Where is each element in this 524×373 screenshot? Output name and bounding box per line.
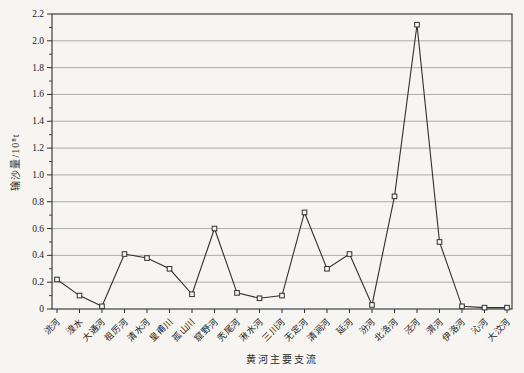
data-point-marker xyxy=(347,252,352,257)
data-point-marker xyxy=(235,291,240,296)
y-tick-label: 2.0 xyxy=(32,36,44,46)
data-point-marker xyxy=(482,305,487,310)
x-tick-label: 大通河 xyxy=(79,316,107,344)
data-point-marker xyxy=(280,293,285,298)
y-axis-title: 输沙量/10⁸t xyxy=(7,102,21,222)
x-tick-label: 清水河 xyxy=(124,316,152,344)
x-tick-label: 湫水河 xyxy=(237,316,265,344)
y-tick-label: 1.0 xyxy=(32,170,44,180)
data-point-marker xyxy=(55,277,60,282)
x-tick-label: 清涧河 xyxy=(304,316,332,344)
data-point-marker xyxy=(145,256,150,261)
data-point-marker xyxy=(505,305,510,310)
x-tick-label: 祖厉河 xyxy=(102,316,130,344)
data-point-marker xyxy=(100,304,105,309)
data-point-marker xyxy=(415,22,420,27)
y-tick-label: 2.2 xyxy=(32,9,44,19)
y-tick-label: 0.2 xyxy=(32,277,44,287)
data-point-marker xyxy=(437,240,442,245)
data-point-marker xyxy=(167,266,172,271)
x-tick-label: 三川河 xyxy=(259,316,287,344)
x-tick-label: 北洛河 xyxy=(372,316,400,344)
data-point-marker xyxy=(392,194,397,199)
line-chart: 00.20.40.60.81.01.21.41.61.82.02.2洮河湟水大通… xyxy=(0,0,524,373)
x-tick-label: 皇甫川 xyxy=(147,316,175,344)
y-tick-label: 0.4 xyxy=(32,250,44,260)
chart-canvas: 00.20.40.60.81.01.21.41.61.82.02.2洮河湟水大通… xyxy=(0,0,524,373)
data-point-marker xyxy=(212,226,217,231)
x-tick-label: 延河 xyxy=(334,316,355,337)
y-tick-label: 1.2 xyxy=(32,143,44,153)
y-tick-label: 1.6 xyxy=(32,89,44,99)
y-tick-label: 1.8 xyxy=(32,63,44,73)
data-point-marker xyxy=(460,304,465,309)
data-point-marker xyxy=(122,252,127,257)
x-tick-label: 窟野河 xyxy=(192,316,220,344)
x-tick-label: 伊洛河 xyxy=(439,316,467,344)
data-point-marker xyxy=(190,292,195,297)
data-point-marker xyxy=(370,303,375,308)
plot-border xyxy=(52,14,512,309)
data-point-marker xyxy=(77,293,82,298)
x-axis-title: 黄河主要支流 xyxy=(52,351,512,366)
data-point-marker xyxy=(325,266,330,271)
data-line xyxy=(57,25,507,308)
x-tick-label: 孤山川 xyxy=(169,316,197,344)
y-tick-label: 0 xyxy=(39,304,44,314)
y-tick-label: 1.4 xyxy=(32,116,44,126)
y-tick-label: 0.6 xyxy=(32,224,44,234)
x-tick-label: 泾河 xyxy=(401,316,422,337)
x-tick-label: 秃尾河 xyxy=(214,316,242,344)
x-tick-label: 大汶河 xyxy=(484,316,512,344)
data-point-marker xyxy=(257,296,262,301)
x-tick-label: 洮河 xyxy=(41,316,62,337)
y-tick-label: 0.8 xyxy=(32,197,44,207)
data-point-marker xyxy=(302,210,307,215)
x-tick-label: 无定河 xyxy=(282,316,310,344)
